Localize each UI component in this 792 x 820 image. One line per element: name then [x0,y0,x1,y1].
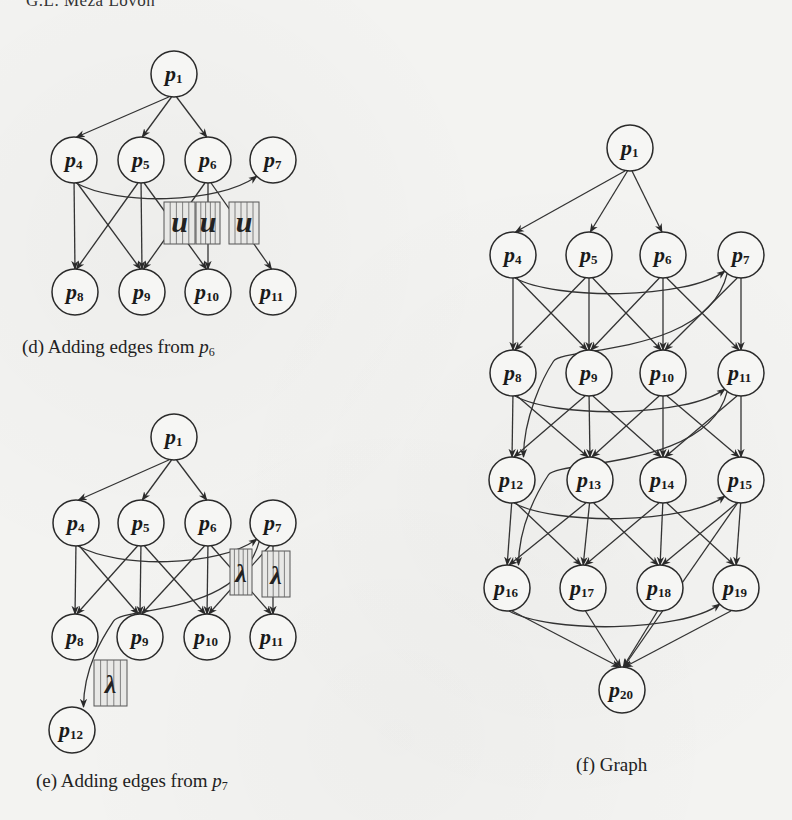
u-glyph-icon: u [164,202,195,244]
edge-p5-p8 [77,183,138,269]
edge-p15-p19 [736,503,741,565]
node-p4: p4 [490,232,536,278]
node-p13: p13 [567,457,613,503]
edge-p4-p7 [515,271,725,294]
u-glyph-icon: u [196,202,220,244]
edge-p14-p18 [660,503,663,565]
edge-p1-p4 [77,97,169,137]
edge-p9-p14 [593,396,661,457]
edge-p6-p11 [667,278,739,350]
edge-p8-p13 [517,396,588,457]
lambda-glyph-icon: λ [262,551,290,597]
node-p9: p9 [119,269,165,315]
edge-p1-p6 [177,97,207,137]
edge-p4-p8 [75,546,76,614]
node-p6: p6 [640,232,686,278]
edge-p15-p18 [662,503,737,565]
caption-panel-d: (d) Adding edges from p6 [22,336,215,360]
edge-p16-p19 [509,604,720,627]
node-p20: p20 [599,667,645,713]
edge-p10-p15 [667,396,739,457]
node-p1: p1 [151,414,197,460]
edge-p11-p16 [519,391,728,565]
node-p5: p5 [118,500,164,546]
svg-text:u: u [200,205,217,238]
node-p10: p10 [184,614,230,660]
edge-p13-p17 [583,503,589,565]
node-p12: p12 [49,707,95,753]
caption-sub: 7 [222,779,228,793]
node-p8: p8 [52,269,98,315]
node-p8: p8 [490,350,536,396]
node-p1: p1 [607,125,653,171]
caption-var: p [199,336,209,357]
node-p11: p11 [250,269,296,315]
svg-text:u: u [236,205,253,238]
edge-p5-p10 [144,546,205,614]
caption-text: (f) Graph [576,754,647,775]
panel-f-nodes: p1p4p5p6p7p8p9p10p11p12p13p14p15p16p17p1… [484,125,764,713]
node-p7: p7 [250,500,296,546]
node-p15: p15 [718,457,764,503]
edge-p5-p9 [140,546,141,614]
caption-panel-e: (e) Adding edges from p7 [36,770,228,794]
node-p4: p4 [53,500,99,546]
node-p10: p10 [185,269,231,315]
edges-layer [74,97,741,707]
edge-p1-p5 [142,97,171,137]
svg-text:u: u [171,205,188,238]
edge-p12-p16 [507,503,512,565]
node-p10: p10 [640,350,686,396]
node-p6: p6 [185,137,231,183]
node-p7: p7 [250,137,296,183]
edge-p4-p8 [74,183,75,269]
lambda-glyph-icon: λ [230,549,252,595]
node-p14: p14 [640,457,686,503]
edge-p8-p11 [515,389,725,412]
edge-p4-p9 [77,183,140,269]
node-p5: p5 [566,232,612,278]
edge-p1-p6 [632,171,662,232]
node-p9: p9 [117,614,163,660]
node-p19: p19 [713,565,759,611]
svg-text:λ: λ [269,561,282,590]
node-p9: p9 [566,350,612,396]
node-p4: p4 [51,137,97,183]
edge-p6-p10 [207,546,208,614]
node-p5: p5 [118,137,164,183]
caption-text: (d) Adding edges from [22,336,199,357]
edge-p11-p14 [665,396,737,457]
edge-p8-p12 [512,396,513,457]
node-p1: p1 [151,51,197,97]
node-p16: p16 [484,565,530,611]
node-p8: p8 [52,614,98,660]
caption-text: (e) Adding edges from [36,770,212,791]
graph-figure: uuuλλλ p1p4p5p6p7p8p9p10p11p1p4p5p6p7p8p… [0,0,792,820]
node-p12: p12 [489,457,535,503]
node-p7: p7 [718,232,764,278]
panel-e-nodes: p1p4p5p6p7p8p9p10p11p12 [49,414,296,753]
edge-p4-p7 [76,176,257,199]
edge-p5-p9 [141,183,142,269]
node-p11: p11 [250,614,296,660]
panel-f-edges [507,171,741,667]
edge-p12-p15 [514,496,725,519]
edge-p9-p13 [589,396,590,457]
lambda-glyph-icon: λ [94,660,127,706]
node-p6: p6 [185,500,231,546]
svg-text:λ: λ [104,670,117,699]
edge-p1-p6 [177,460,207,500]
caption-panel-f: (f) Graph [576,754,647,776]
panel-d-nodes: p1p4p5p6p7p8p9p10p11 [51,51,296,315]
nodes-layer: p1p4p5p6p7p8p9p10p11p1p4p5p6p7p8p9p10p11… [49,51,764,753]
edge-p9-p12 [514,396,585,457]
node-p11: p11 [718,350,764,396]
edge-p13-p16 [509,503,586,565]
node-p17: p17 [560,565,606,611]
edge-p6-p9 [142,546,205,614]
svg-text:λ: λ [234,559,247,588]
node-p18: p18 [637,565,683,611]
edge-p1-p4 [79,460,169,500]
u-glyph-icon: u [229,202,259,244]
caption-sub: 6 [209,345,215,359]
